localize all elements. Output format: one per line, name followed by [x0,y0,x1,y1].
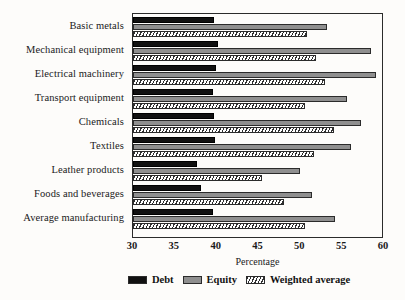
category-label: Transport equipment [0,86,128,110]
bar-group [133,63,382,87]
bar-weighted-average [133,103,305,109]
category-label: Foods and beverages [0,182,128,206]
bar-weighted-average [133,127,334,133]
legend-label: Equity [207,274,237,285]
category-label: Average manufacturing [0,206,128,230]
bar-debt [133,113,214,119]
bar-weighted-average [133,223,305,229]
category-label: Mechanical equipment [0,38,128,62]
bar-weighted-average [133,199,284,205]
plot-area [132,13,383,238]
bar-group [133,15,382,39]
legend-label: Debt [152,274,174,285]
category-label: Textiles [0,134,128,158]
bar-weighted-average [133,55,316,61]
solid-black-swatch [128,276,147,284]
legend-entry: Debt [128,274,174,285]
bar-debt [133,137,215,143]
bar-weighted-average [133,79,325,85]
bar-debt [133,89,213,95]
x-tick-label: 30 [127,240,138,251]
chart-legend: DebtEquityWeighted average [128,274,400,285]
x-tick-label: 45 [252,240,263,251]
bar-equity [133,24,327,30]
bar-group [133,207,382,231]
legend-entry: Equity [183,274,237,285]
bar-group [133,87,382,111]
category-label: Leather products [0,158,128,182]
bar-debt [133,161,197,167]
bar-debt [133,65,216,71]
bars-container [133,14,382,237]
bar-equity [133,72,376,78]
category-axis-labels: Basic metalsMechanical equipmentElectric… [0,14,128,230]
bar-equity [133,120,361,126]
bar-debt [133,41,218,47]
x-tick-label: 60 [378,240,389,251]
bar-equity [133,144,351,150]
x-axis-title: Percentage [132,256,383,267]
bar-equity [133,96,347,102]
x-tick-label: 40 [210,240,221,251]
bar-group [133,183,382,207]
category-label: Electrical machinery [0,62,128,86]
bar-equity [133,48,371,54]
bar-debt [133,17,214,23]
category-label: Chemicals [0,110,128,134]
bar-equity [133,168,300,174]
bar-equity [133,192,312,198]
bar-equity [133,216,335,222]
bar-weighted-average [133,175,262,181]
category-label: Basic metals [0,14,128,38]
bar-group [133,111,382,135]
bar-group [133,135,382,159]
legend-entry: Weighted average [246,274,350,285]
bar-debt [133,185,201,191]
x-tick-label: 55 [336,240,347,251]
bar-debt [133,209,213,215]
hatched-swatch [246,276,265,284]
x-tick-label: 35 [169,240,180,251]
bar-weighted-average [133,31,307,37]
horizontal-bar-chart: Basic metalsMechanical equipmentElectric… [0,0,405,300]
bar-group [133,159,382,183]
bar-weighted-average [133,151,314,157]
x-tick-label: 50 [294,240,305,251]
legend-label: Weighted average [270,274,350,285]
x-axis-ticks: 30354045505560 [132,240,383,254]
solid-gray-swatch [183,276,202,284]
bar-group [133,39,382,63]
